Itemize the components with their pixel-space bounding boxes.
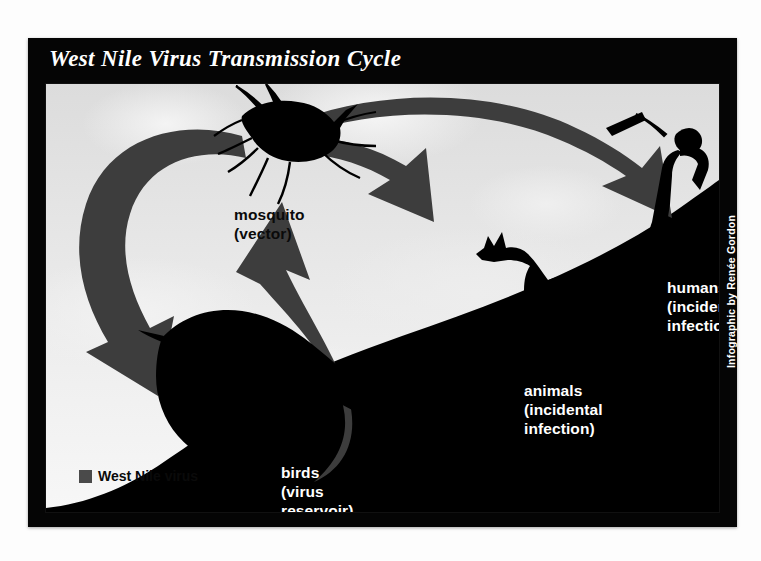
- legend-swatch-west-nile-virus: [79, 470, 92, 483]
- credit-line: Infographic by Renée Gordon: [725, 215, 737, 368]
- infographic-poster: West Nile Virus Transmission Cycle: [28, 38, 737, 527]
- mosquito-silhouette: [214, 84, 376, 204]
- illustration-plate: mosquito (vector) birds (virus reservoir…: [45, 83, 720, 513]
- label-animals: animals (incidental infection): [524, 382, 603, 439]
- label-humans: humans (incidental infection): [667, 279, 720, 336]
- page-title: West Nile Virus Transmission Cycle: [49, 46, 401, 72]
- page-canvas: West Nile Virus Transmission Cycle: [0, 0, 761, 561]
- label-mosquito: mosquito (vector): [234, 206, 305, 244]
- label-birds: birds (virus reservoir): [281, 464, 354, 513]
- transmission-cycle-artwork: [46, 84, 719, 512]
- legend-label-west-nile-virus: West Nile virus: [98, 468, 198, 484]
- legend: West Nile virus: [79, 468, 198, 484]
- title-banner: West Nile Virus Transmission Cycle: [28, 38, 737, 82]
